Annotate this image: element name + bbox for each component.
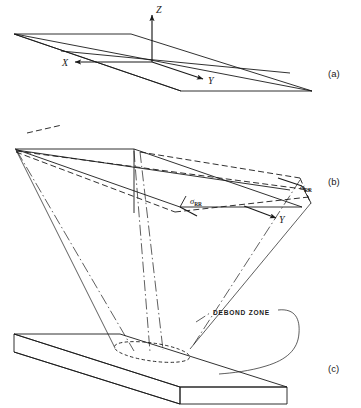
panel-b-undeformed-outline: [15, 149, 302, 207]
panel-c: DEBOND ZONE (c): [14, 309, 339, 404]
panel-b-lead-tick: [27, 125, 62, 133]
panel-b-axis-y: [244, 206, 276, 218]
panel-a-axis-y: [152, 62, 203, 79]
panel-label-a: (a): [328, 68, 340, 79]
panel-a-plate-outline: [14, 34, 312, 91]
technical-figure: Z X Y (a): [0, 0, 361, 408]
panel-c-caption-tick: [196, 313, 210, 322]
debond-zone-label: DEBOND ZONE: [213, 309, 270, 316]
panel-b: σRR σRR Y (b): [15, 125, 340, 225]
stress-label-center: σRR: [190, 196, 202, 207]
panel-c-debond-leader: [219, 310, 299, 374]
projection-lines: [16, 150, 311, 352]
panel-c-debond-ellipse: [113, 338, 191, 366]
panel-label-c: (c): [328, 363, 339, 374]
stress-label-right: σRR: [300, 182, 312, 193]
panel-b-deformed-outline: [16, 151, 311, 212]
panel-label-b: (b): [328, 176, 340, 187]
panel-b-axis-label-y: Y: [279, 214, 286, 225]
panel-a: Z X Y (a): [14, 4, 340, 91]
axis-label-z: Z: [156, 4, 162, 15]
axis-label-x: X: [61, 57, 69, 68]
panel-c-plate-slab: [14, 334, 287, 404]
figure-root: Z X Y (a): [0, 0, 361, 408]
axis-label-y: Y: [208, 75, 215, 86]
